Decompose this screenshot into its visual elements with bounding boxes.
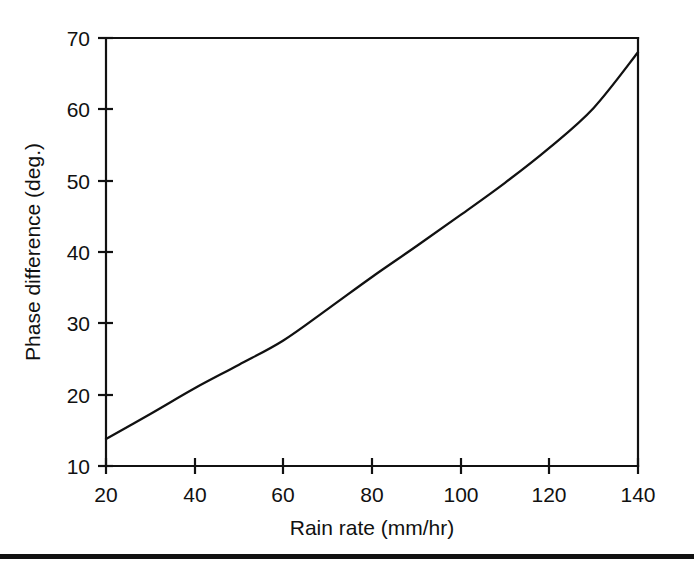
figure-container: 70 60 50 40 30 20 10 20 40 60 80 100 120 — [0, 0, 694, 565]
y-tick-label-20: 20 — [67, 384, 90, 407]
x-tick-label-60: 60 — [271, 483, 294, 506]
x-axis-tick-labels: 20 40 60 80 100 120 140 — [94, 483, 655, 506]
y-tick-label-40: 40 — [67, 241, 90, 264]
x-tick-label-40: 40 — [183, 483, 206, 506]
data-curve-phase-difference — [106, 52, 638, 439]
y-axis-tick-labels: 70 60 50 40 30 20 10 — [67, 27, 90, 478]
x-tick-label-120: 120 — [531, 483, 566, 506]
x-tick-label-20: 20 — [94, 483, 117, 506]
x-tick-label-80: 80 — [360, 483, 383, 506]
x-tick-label-100: 100 — [443, 483, 478, 506]
y-tick-label-50: 50 — [67, 170, 90, 193]
y-axis-title: Phase difference (deg.) — [21, 143, 44, 361]
y-tick-label-60: 60 — [67, 98, 90, 121]
y-tick-label-30: 30 — [67, 312, 90, 335]
x-axis-title: Rain rate (mm/hr) — [290, 516, 455, 539]
phase-difference-vs-rain-rate-chart: 70 60 50 40 30 20 10 20 40 60 80 100 120 — [0, 0, 694, 565]
plot-frame — [106, 38, 638, 466]
x-tick-label-140: 140 — [620, 483, 655, 506]
y-tick-label-70: 70 — [67, 27, 90, 50]
y-tick-label-10: 10 — [67, 455, 90, 478]
footer-rule — [0, 554, 694, 559]
